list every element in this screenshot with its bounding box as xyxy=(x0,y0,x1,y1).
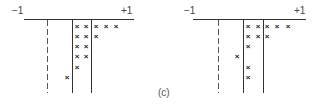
x-mark: × xyxy=(263,33,271,41)
x-mark: × xyxy=(273,23,281,31)
x-mark: × xyxy=(73,43,81,51)
x-mark: × xyxy=(284,23,292,31)
dashed-reference-line xyxy=(47,20,48,93)
axis-min-label: −1 xyxy=(12,6,23,16)
x-mark: × xyxy=(73,53,81,61)
x-mark: × xyxy=(263,23,271,31)
x-mark: × xyxy=(82,53,90,61)
dashed-reference-line xyxy=(218,20,219,93)
x-mark: × xyxy=(244,33,252,41)
x-mark: × xyxy=(82,33,90,41)
x-mark: × xyxy=(73,33,81,41)
axis-line xyxy=(24,19,134,20)
x-mark: × xyxy=(244,43,252,51)
x-mark: × xyxy=(254,33,262,41)
x-mark: × xyxy=(102,23,110,31)
x-mark: × xyxy=(254,23,262,31)
x-mark: × xyxy=(63,74,71,82)
x-mark: × xyxy=(82,43,90,51)
x-mark: × xyxy=(244,64,252,72)
x-mark: × xyxy=(73,64,81,72)
x-mark: × xyxy=(233,53,241,61)
axis-line xyxy=(193,19,306,20)
x-mark: × xyxy=(112,23,120,31)
axis-max-label: +1 xyxy=(294,6,305,16)
axis-max-label: +1 xyxy=(121,6,132,16)
figure-caption: (c) xyxy=(158,87,170,98)
x-mark: × xyxy=(82,23,90,31)
x-mark: × xyxy=(73,23,81,31)
x-mark: × xyxy=(92,23,100,31)
x-mark: × xyxy=(92,33,100,41)
axis-min-label: −1 xyxy=(184,6,195,16)
x-mark: × xyxy=(244,23,252,31)
x-mark: × xyxy=(244,74,252,82)
